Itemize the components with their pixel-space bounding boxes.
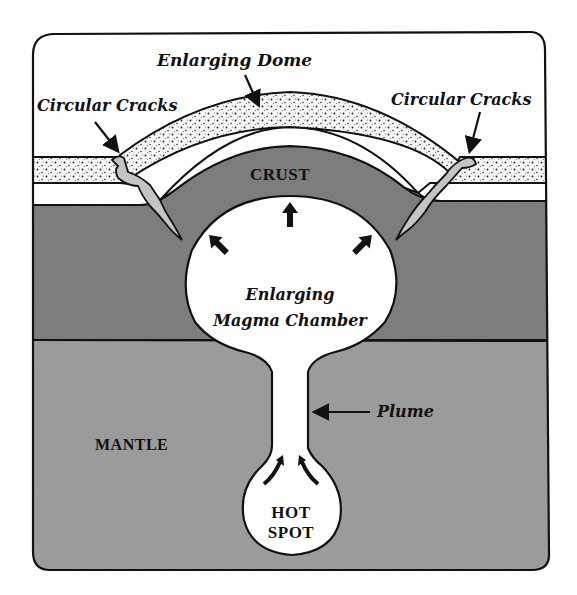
hot-spot-diagram: Enlarging Dome Circular Cracks Circular … bbox=[0, 0, 577, 595]
label-magma-chamber-line2: Magma Chamber bbox=[212, 311, 368, 330]
label-mantle: MANTLE bbox=[95, 436, 168, 453]
label-hot-spot-line1: HOT bbox=[271, 503, 310, 522]
label-circular-cracks-left: Circular Cracks bbox=[37, 96, 177, 115]
label-magma-chamber-line1: Enlarging bbox=[245, 285, 335, 304]
label-circular-cracks-right: Circular Cracks bbox=[391, 90, 531, 109]
label-plume: Plume bbox=[376, 402, 434, 421]
label-hot-spot-line2: SPOT bbox=[268, 523, 315, 542]
label-crust: CRUST bbox=[250, 165, 310, 184]
label-enlarging-dome: Enlarging Dome bbox=[156, 50, 312, 70]
